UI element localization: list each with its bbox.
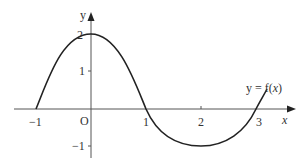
y-tick-label-neg1: −1 [72, 139, 85, 153]
y-tick-label-1: 1 [79, 64, 85, 78]
y-axis-label: y [80, 8, 86, 22]
function-graph: y x O −1 1 2 3 2 1 −1 y = f(x) [0, 0, 302, 164]
x-axis-label: x [281, 113, 288, 127]
x-tick-label-neg1: −1 [29, 115, 42, 129]
x-tick-label-1: 1 [143, 115, 149, 129]
x-axis-arrow-icon [287, 106, 296, 113]
x-tick-label-2: 2 [198, 115, 204, 129]
y-tick-label-2: 2 [77, 28, 83, 42]
curve-f-of-x [36, 34, 267, 146]
y-axis-arrow-icon [88, 12, 95, 21]
origin-label: O [80, 114, 89, 128]
x-tick-label-3: 3 [256, 115, 262, 129]
curve-label: y = f(x) [246, 81, 282, 95]
